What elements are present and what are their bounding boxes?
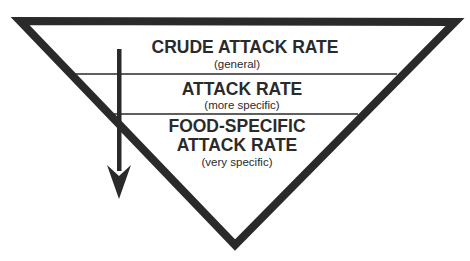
level-3-title-line-2: ATTACK RATE (177, 135, 298, 155)
attack-rate-hierarchy-diagram: CRUDE ATTACK RATE (general) ATTACK RATE … (0, 0, 470, 261)
level-3-title-line-1: FOOD-SPECIFIC (168, 116, 305, 136)
arrow-shaft (117, 49, 122, 171)
level-1-title: CRUDE ATTACK RATE (152, 37, 339, 57)
level-3-subtitle: (very specific) (202, 156, 273, 168)
level-1-subtitle: (general) (214, 58, 260, 70)
level-2-title: ATTACK RATE (182, 79, 303, 99)
level-2-subtitle: (more specific) (204, 99, 280, 111)
